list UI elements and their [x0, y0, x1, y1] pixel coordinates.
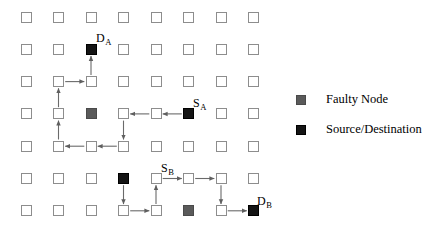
grid-node: [183, 76, 194, 87]
grid-node: [118, 205, 129, 216]
endpoint-node-da: [86, 44, 97, 55]
label-da-subscript: A: [105, 37, 111, 47]
grid-node: [21, 44, 32, 55]
label-da: DA: [96, 32, 111, 44]
endpoint-node-sb: [118, 173, 129, 184]
grid-node: [216, 205, 227, 216]
grid-node: [151, 44, 162, 55]
label-db-subscript: B: [266, 200, 272, 210]
grid-node: [151, 141, 162, 152]
grid-node: [21, 108, 32, 119]
grid-node: [151, 173, 162, 184]
grid-node: [21, 173, 32, 184]
grid-node: [53, 44, 64, 55]
grid-node: [183, 173, 194, 184]
endpoint-node-sa: [183, 108, 194, 119]
grid-node: [86, 12, 97, 23]
grid-node: [216, 108, 227, 119]
grid-node: [183, 141, 194, 152]
grid-node: [118, 76, 129, 87]
label-sb-base: S: [161, 161, 168, 175]
legend-endpoint-label: Source/Destination: [326, 122, 422, 137]
faulty-node: [86, 108, 97, 119]
grid-node: [86, 173, 97, 184]
grid-node: [21, 141, 32, 152]
grid-node: [21, 76, 32, 87]
grid-node: [183, 12, 194, 23]
label-sa-base: S: [193, 96, 200, 110]
grid-node: [118, 141, 129, 152]
grid-node: [86, 141, 97, 152]
grid-node: [53, 141, 64, 152]
label-sb: SB: [161, 162, 173, 174]
label-sa-subscript: A: [200, 102, 206, 112]
grid-node: [118, 44, 129, 55]
network-routing-figure: DASASBDB: [0, 0, 445, 238]
grid-node: [53, 108, 64, 119]
legend-faulty-swatch-icon: [296, 95, 306, 105]
grid-node: [53, 173, 64, 184]
grid-node: [216, 141, 227, 152]
label-db: DB: [257, 195, 271, 207]
grid-node: [151, 108, 162, 119]
grid-node: [216, 173, 227, 184]
grid-node: [53, 12, 64, 23]
legend-faulty-label: Faulty Node: [326, 92, 388, 107]
legend-endpoint: Source/Destination: [296, 122, 422, 137]
grid-node: [151, 205, 162, 216]
grid-node: [248, 12, 259, 23]
grid-node: [21, 205, 32, 216]
grid-node: [151, 76, 162, 87]
grid-node: [183, 44, 194, 55]
grid-node: [53, 205, 64, 216]
grid-node: [248, 173, 259, 184]
grid-node: [248, 76, 259, 87]
grid-node: [216, 12, 227, 23]
label-db-base: D: [257, 194, 266, 208]
grid-node: [248, 108, 259, 119]
legend-faulty: Faulty Node: [296, 92, 388, 107]
grid-node: [86, 76, 97, 87]
grid-node: [53, 76, 64, 87]
label-sb-subscript: B: [168, 167, 174, 177]
grid-node: [216, 76, 227, 87]
grid-node: [248, 44, 259, 55]
label-da-base: D: [96, 31, 105, 45]
grid-node: [118, 108, 129, 119]
grid-node: [21, 12, 32, 23]
grid-node: [216, 44, 227, 55]
label-sa: SA: [193, 97, 206, 109]
grid-node: [151, 12, 162, 23]
grid-node: [86, 205, 97, 216]
faulty-node: [183, 205, 194, 216]
grid-node: [248, 141, 259, 152]
legend-endpoint-swatch-icon: [296, 125, 306, 135]
grid-node: [118, 12, 129, 23]
